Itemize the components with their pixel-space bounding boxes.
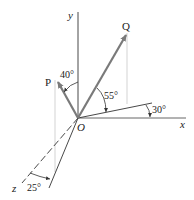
- diagram-svg: y x z O Q P 40° 55° 30° 25°: [0, 0, 194, 200]
- z-axis-label: z: [11, 182, 17, 194]
- force-diagram: y x z O Q P 40° 55° 30° 25°: [0, 0, 194, 200]
- angle-arc-40: [64, 82, 78, 92]
- p-label: P: [45, 76, 51, 88]
- angle-label-25: 25°: [27, 182, 41, 193]
- y-axis-label: y: [67, 9, 73, 21]
- x-axis-label: x: [179, 118, 185, 130]
- angle-label-55: 55°: [104, 90, 118, 101]
- p-plane-line: [49, 118, 78, 188]
- angle-label-40: 40°: [60, 69, 74, 80]
- angle-arc-30: [146, 105, 150, 117]
- angle-label-30: 30°: [152, 104, 166, 115]
- vector-q: [78, 35, 126, 118]
- q-plane-line: [78, 103, 152, 118]
- q-label: Q: [122, 20, 130, 32]
- angle-arc-25: [30, 173, 50, 179]
- origin-label: O: [77, 121, 85, 133]
